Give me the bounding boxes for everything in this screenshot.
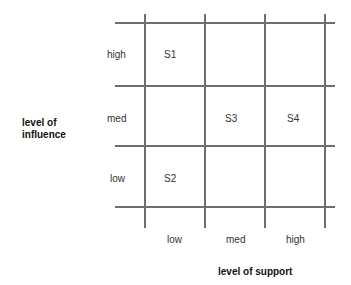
y-axis-title-line2: influence bbox=[22, 129, 66, 141]
cell-label-s1: S1 bbox=[164, 49, 176, 61]
x-axis-tick-med: med bbox=[226, 234, 245, 246]
x-axis-tick-high: high bbox=[286, 234, 305, 246]
gridline-horizontal-bottom bbox=[115, 206, 335, 208]
y-axis-title-line1: level of bbox=[22, 117, 66, 129]
stakeholder-influence-support-grid: high med low S1 S3 S4 S2 low med high le… bbox=[0, 0, 351, 285]
gridline-vertical-third bbox=[264, 14, 266, 228]
cell-label-s2: S2 bbox=[164, 173, 176, 185]
y-axis-tick-high: high bbox=[107, 49, 126, 61]
y-axis-title: level of influence bbox=[22, 117, 66, 141]
gridline-horizontal-second bbox=[115, 85, 335, 87]
gridline-vertical-first bbox=[144, 14, 146, 228]
x-axis-tick-low: low bbox=[167, 234, 182, 246]
gridline-horizontal-top bbox=[115, 22, 335, 24]
y-axis-tick-med: med bbox=[107, 113, 126, 125]
gridline-horizontal-third bbox=[115, 145, 335, 147]
gridline-vertical-second bbox=[204, 14, 206, 228]
y-axis-tick-low: low bbox=[110, 173, 125, 185]
cell-label-s3: S3 bbox=[225, 113, 237, 125]
gridline-vertical-fourth bbox=[324, 14, 326, 228]
cell-label-s4: S4 bbox=[287, 113, 299, 125]
x-axis-title: level of support bbox=[218, 266, 292, 278]
